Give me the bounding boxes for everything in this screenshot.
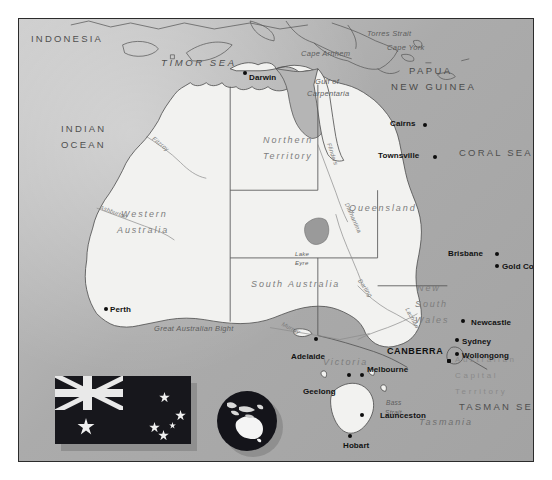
- city-dot-hobart[interactable]: [348, 434, 352, 438]
- city-dot-sydney[interactable]: [455, 338, 459, 342]
- city-dot-newcastle[interactable]: [461, 319, 465, 323]
- southern-cross-star-delta: [158, 430, 169, 441]
- lake-eyre: [305, 218, 329, 244]
- city-dot-cairns[interactable]: [423, 123, 427, 127]
- city-dot-canberra[interactable]: [447, 359, 451, 363]
- australian-flag-inset: [55, 376, 191, 444]
- australia-mainland: [85, 63, 421, 347]
- city-dot-wollongong[interactable]: [455, 352, 459, 356]
- city-dot-darwin[interactable]: [243, 71, 247, 75]
- southern-cross-star-epsilon: [169, 422, 176, 429]
- indonesia-outline: [71, 21, 308, 61]
- city-dot-brisbane[interactable]: [495, 252, 499, 256]
- city-dot-adelaide[interactable]: [314, 337, 318, 341]
- tasmania-island: [331, 383, 374, 433]
- globe-landmasses: [217, 391, 277, 451]
- city-dot-melbourne[interactable]: [360, 373, 364, 377]
- city-dot-gold-coast[interactable]: [495, 264, 499, 268]
- union-jack-canton: [55, 376, 123, 410]
- city-dot-perth[interactable]: [104, 307, 108, 311]
- australia-map: INDONESIA TIMOR SEA INDIAN OCEAN PAPUA N…: [0, 0, 552, 480]
- city-dot-launceston[interactable]: [360, 413, 364, 417]
- city-dot-townsville[interactable]: [433, 155, 437, 159]
- city-dot-geelong[interactable]: [347, 373, 351, 377]
- commonwealth-star: [77, 418, 95, 436]
- kangaroo-island: [294, 329, 312, 337]
- southern-cross-star-alpha: [149, 422, 160, 433]
- map-frame: INDONESIA TIMOR SEA INDIAN OCEAN PAPUA N…: [18, 18, 534, 462]
- southern-cross-star-beta: [159, 392, 170, 403]
- southern-cross-star-gamma: [175, 410, 186, 421]
- globe-locator-inset: [217, 391, 277, 451]
